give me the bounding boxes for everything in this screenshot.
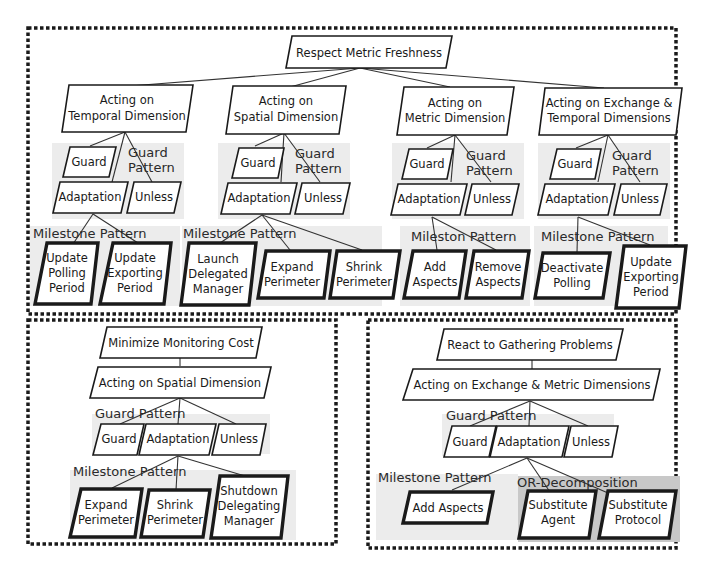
node-label: Delegating	[218, 499, 281, 513]
node-label: Aspects	[475, 275, 520, 289]
root-goal-react-to-gathering-problems[interactable]: React to Gathering Problems	[437, 329, 623, 360]
node-label: Unless	[135, 190, 173, 204]
guard-pattern-label: Guard	[466, 148, 506, 163]
node-label: Protocol	[615, 513, 661, 527]
root-goal-respect-metric-freshness[interactable]: Respect Metric Freshness	[286, 36, 452, 68]
milestone-pattern-label: Milestone Pattern	[33, 226, 146, 241]
node-label: Substitute	[609, 498, 668, 512]
milestone-launch-delegated-manager[interactable]: Launch Delegated Manager	[181, 243, 256, 305]
guard-pattern-label: Guard	[612, 148, 652, 163]
node-label: Adaptation	[498, 435, 561, 449]
node-label: Acting on	[428, 96, 482, 110]
node-label: Guard	[557, 157, 592, 171]
branch-acting-spatial-bl[interactable]: Acting on Spatial Dimension	[90, 367, 271, 398]
node-label: Agent	[541, 513, 576, 527]
node-label: Update	[630, 255, 672, 269]
guard-pattern-label: Guard Pattern	[446, 408, 537, 423]
adaptation-node[interactable]: Adaptation	[221, 183, 297, 214]
node-label: Manager	[193, 282, 244, 296]
node-label: Period	[633, 285, 669, 299]
milestone-update-exporting-period[interactable]: Update Exporting Period	[100, 243, 171, 304]
node-label: Guard	[101, 432, 136, 446]
guard-node[interactable]: Guard	[232, 148, 284, 178]
node-label: Unless	[220, 432, 258, 446]
node-label: Update	[114, 251, 156, 265]
milestone-update-exporting-period-2[interactable]: Update Exporting Period	[616, 246, 686, 308]
option-substitute-protocol[interactable]: Substitute Protocol	[599, 491, 676, 538]
node-label: Metric Dimension	[405, 111, 506, 125]
node-label: Acting on Exchange & Metric Dimensions	[414, 378, 651, 392]
milestone-add-aspects[interactable]: Add Aspects	[404, 251, 466, 298]
milestone-pattern-label: Mileston Pattern	[411, 229, 516, 244]
milestone-add-aspects-br[interactable]: Add Aspects	[403, 492, 493, 523]
adaptation-node[interactable]: Adaptation	[53, 182, 128, 213]
edges-top-root	[130, 68, 604, 88]
milestone-pattern-label: Milestone Pattern	[378, 470, 491, 485]
adaptation-node[interactable]: Adaptation	[139, 424, 216, 455]
node-label: Polling	[48, 266, 86, 280]
node-label: Aspects	[412, 275, 457, 289]
milestone-pattern-label: Milestone Pattern	[541, 229, 654, 244]
node-label: Temporal Dimension	[67, 109, 185, 123]
node-label: Update	[46, 251, 88, 265]
node-label: Shrink	[157, 498, 194, 512]
node-label: Guard	[240, 156, 275, 170]
guard-node[interactable]: Guard	[444, 426, 496, 457]
root-goal-minimize-monitoring-cost[interactable]: Minimize Monitoring Cost	[100, 327, 262, 358]
node-label: Guard	[71, 155, 106, 169]
branch-acting-exchange-metric[interactable]: Acting on Exchange & Metric Dimensions	[403, 369, 660, 400]
or-decomposition-label: OR-Decomposition	[517, 475, 638, 490]
milestone-pattern-label: Milestone Pattern	[73, 464, 186, 479]
node-label: Temporal Dimensions	[546, 111, 670, 125]
node-label: Perimeter	[264, 275, 320, 289]
unless-node[interactable]: Unless	[212, 424, 266, 455]
guard-pattern-label: Guard	[128, 145, 168, 160]
unless-node[interactable]: Unless	[127, 182, 181, 213]
node-label: Expand	[270, 260, 313, 274]
node-label: Add	[424, 260, 446, 274]
node-label: Add Aspects	[413, 501, 484, 515]
node-label: Exporting	[107, 266, 162, 280]
milestone-remove-aspects[interactable]: Remove Aspects	[466, 251, 529, 298]
node-label: Manager	[224, 514, 275, 528]
node-label: Spatial Dimension	[234, 110, 338, 124]
adaptation-node[interactable]: Adaptation	[490, 426, 569, 457]
branch-acting-exchange-temporal[interactable]: Acting on Exchange & Temporal Dimensions	[539, 88, 682, 135]
node-label: Remove	[475, 260, 522, 274]
node-label: Unless	[304, 191, 342, 205]
node-label: Acting on	[100, 93, 154, 107]
unless-node[interactable]: Unless	[465, 184, 519, 215]
guard-pattern-label: Pattern	[295, 161, 342, 176]
node-label: Guard	[452, 435, 487, 449]
guard-node[interactable]: Guard	[63, 147, 116, 177]
guard-pattern-label: Pattern	[612, 163, 659, 178]
node-label: Exporting	[623, 270, 678, 284]
option-substitute-agent[interactable]: Substitute Agent	[519, 491, 596, 538]
unless-node[interactable]: Unless	[614, 184, 667, 215]
node-label: Respect Metric Freshness	[296, 46, 442, 60]
milestone-expand-perimeter[interactable]: Expand Perimeter	[258, 251, 330, 298]
adaptation-node[interactable]: Adaptation	[538, 184, 615, 215]
branch-acting-temporal[interactable]: Acting on Temporal Dimension	[62, 85, 193, 132]
milestone-shutdown-delegating-manager[interactable]: Shutdown Delegating Manager	[211, 476, 288, 538]
node-label: Adaptation	[59, 190, 122, 204]
adaptation-node[interactable]: Adaptation	[391, 184, 467, 215]
node-label: Period	[117, 281, 153, 295]
milestone-shrink-perimeter-bl[interactable]: Shrink Perimeter	[141, 490, 210, 537]
guard-node[interactable]: Guard	[93, 424, 144, 455]
node-label: Perimeter	[147, 513, 203, 527]
branch-acting-spatial[interactable]: Acting on Spatial Dimension	[226, 86, 346, 134]
branch-acting-metric[interactable]: Acting on Metric Dimension	[397, 87, 514, 135]
node-label: Unless	[621, 192, 659, 206]
milestone-shrink-perimeter[interactable]: Shrink Perimeter	[330, 251, 400, 298]
node-label: Period	[49, 281, 85, 295]
guard-pattern-label: Pattern	[466, 163, 513, 178]
unless-node[interactable]: Unless	[564, 426, 618, 457]
guard-node[interactable]: Guard	[402, 149, 453, 179]
milestone-expand-perimeter-bl[interactable]: Expand Perimeter	[70, 489, 142, 537]
milestone-deactivate-polling[interactable]: Deactivate Polling	[535, 253, 610, 298]
guard-node[interactable]: Guard	[550, 149, 601, 179]
node-label: Acting on	[259, 94, 313, 108]
unless-node[interactable]: Unless	[295, 183, 350, 214]
milestone-update-polling-period[interactable]: Update Polling Period	[35, 243, 98, 304]
